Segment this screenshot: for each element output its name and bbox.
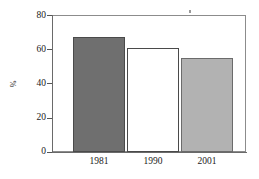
- x-tick-label-2001: 2001: [181, 156, 233, 167]
- bar-1990: [127, 48, 179, 153]
- x-tick-label-1990: 1990: [127, 156, 179, 167]
- bar-1981: [73, 37, 125, 152]
- x-tick-label-1981: 1981: [73, 156, 125, 167]
- bar-2001: [181, 58, 233, 152]
- bar-chart: % 80 60 40 20 0 1981 1990 2001: [0, 0, 259, 179]
- bars-layer: [0, 0, 259, 179]
